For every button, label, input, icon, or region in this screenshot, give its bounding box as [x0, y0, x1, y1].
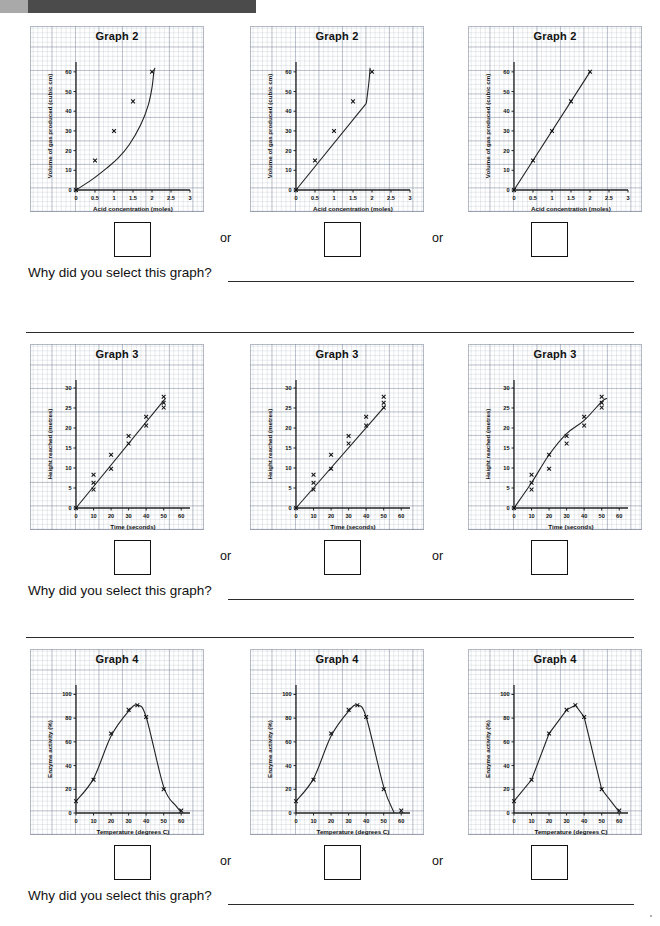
- svg-text:60: 60: [616, 818, 622, 824]
- svg-text:25: 25: [285, 405, 291, 411]
- graph-panel-graph-3-option-1[interactable]: 0102030405060051015202530Time (seconds)H…: [30, 344, 204, 530]
- svg-text:Enzyme activity (%): Enzyme activity (%): [484, 720, 491, 778]
- svg-text:Volume of gas produced (cubic: Volume of gas produced (cubic cm): [484, 74, 491, 178]
- svg-text:30: 30: [563, 818, 569, 824]
- svg-text:100: 100: [500, 691, 509, 697]
- section-divider: [26, 332, 634, 333]
- svg-text:3: 3: [408, 195, 411, 201]
- svg-text:40: 40: [143, 818, 149, 824]
- svg-text:50: 50: [599, 513, 605, 519]
- section-divider: [26, 637, 634, 638]
- svg-text:40: 40: [65, 108, 71, 114]
- svg-text:2.5: 2.5: [605, 195, 613, 201]
- svg-text:40: 40: [363, 818, 369, 824]
- graph-choice-checkbox-2[interactable]: [324, 540, 361, 575]
- graph-title: Graph 2: [30, 30, 204, 42]
- svg-text:20: 20: [108, 818, 114, 824]
- svg-text:0: 0: [506, 187, 509, 193]
- svg-text:40: 40: [581, 513, 587, 519]
- graph-panel-graph-4-option-2[interactable]: 0102030405060020406080100Temperature (de…: [250, 649, 424, 835]
- svg-text:Acid concentration (moles): Acid concentration (moles): [531, 205, 611, 212]
- svg-text:30: 30: [503, 385, 509, 391]
- svg-text:0: 0: [68, 810, 71, 816]
- graph-panel-graph-4-option-1[interactable]: 0102030405060020406080100Temperature (de…: [30, 649, 204, 835]
- svg-text:0.5: 0.5: [529, 195, 537, 201]
- svg-text:60: 60: [65, 739, 71, 745]
- svg-text:2.5: 2.5: [167, 195, 175, 201]
- svg-text:20: 20: [65, 425, 71, 431]
- graph-options-row: 0102030405060020406080100Temperature (de…: [0, 649, 660, 835]
- svg-text:25: 25: [65, 405, 71, 411]
- graph-choice-checkbox-2[interactable]: [324, 222, 361, 257]
- svg-text:0: 0: [294, 195, 297, 201]
- svg-text:0: 0: [506, 810, 509, 816]
- svg-text:60: 60: [65, 69, 71, 75]
- reason-answer-line[interactable]: [228, 904, 634, 905]
- svg-text:60: 60: [178, 513, 184, 519]
- svg-text:20: 20: [328, 513, 334, 519]
- svg-text:20: 20: [546, 513, 552, 519]
- graph-choice-checkbox-1[interactable]: [114, 222, 151, 257]
- graph-title: Graph 4: [250, 653, 424, 665]
- svg-text:2: 2: [370, 195, 373, 201]
- svg-text:40: 40: [285, 108, 291, 114]
- svg-text:50: 50: [285, 89, 291, 95]
- graph-choice-checkbox-1[interactable]: [114, 845, 151, 880]
- graph-choice-checkbox-3[interactable]: [531, 222, 568, 257]
- choice-row: oror: [0, 540, 660, 580]
- svg-text:80: 80: [65, 715, 71, 721]
- graph-choice-checkbox-2[interactable]: [324, 845, 361, 880]
- plot-area: 0102030405060020406080100Temperature (de…: [468, 649, 642, 835]
- graph-choice-checkbox-1[interactable]: [114, 540, 151, 575]
- plot-area: 0102030405060020406080100Temperature (de…: [30, 649, 204, 835]
- graph-panel-graph-2-option-3[interactable]: 00.511.522.530102030405060Acid concentra…: [468, 26, 642, 212]
- svg-text:10: 10: [528, 513, 534, 519]
- plot-area: 0102030405060051015202530Time (seconds)H…: [468, 344, 642, 530]
- graph-choice-checkbox-3[interactable]: [531, 540, 568, 575]
- svg-text:0: 0: [512, 513, 515, 519]
- svg-text:60: 60: [398, 818, 404, 824]
- svg-text:10: 10: [310, 818, 316, 824]
- plot-area: 00.511.522.530102030405060Acid concentra…: [30, 26, 204, 212]
- svg-text:50: 50: [65, 89, 71, 95]
- svg-text:0: 0: [74, 195, 77, 201]
- svg-text:60: 60: [503, 739, 509, 745]
- svg-text:30: 30: [125, 818, 131, 824]
- svg-text:20: 20: [328, 818, 334, 824]
- graph-panel-graph-2-option-1[interactable]: 00.511.522.530102030405060Acid concentra…: [30, 26, 204, 212]
- svg-text:Enzyme activity (%): Enzyme activity (%): [266, 720, 273, 778]
- svg-text:1: 1: [112, 195, 115, 201]
- svg-text:80: 80: [285, 715, 291, 721]
- svg-text:0: 0: [512, 195, 515, 201]
- scan-artifact-light-segment: [0, 0, 28, 13]
- svg-text:40: 40: [143, 513, 149, 519]
- svg-text:0: 0: [68, 505, 71, 511]
- svg-text:0: 0: [74, 818, 77, 824]
- reason-answer-line[interactable]: [228, 599, 634, 600]
- graph-panel-graph-4-option-3[interactable]: 0102030405060020406080100Temperature (de…: [468, 649, 642, 835]
- reason-question-label: Why did you select this graph?: [28, 265, 212, 280]
- svg-text:60: 60: [285, 739, 291, 745]
- graph-options-row: 0102030405060051015202530Time (seconds)H…: [0, 344, 660, 530]
- graph-choice-checkbox-3[interactable]: [531, 845, 568, 880]
- reason-question-row: Why did you select this graph?: [0, 265, 660, 289]
- svg-text:10: 10: [285, 167, 291, 173]
- svg-text:Acid concentration (moles): Acid concentration (moles): [93, 205, 173, 212]
- svg-text:Time (seconds): Time (seconds): [548, 523, 593, 530]
- svg-text:20: 20: [503, 148, 509, 154]
- graph-title: Graph 2: [468, 30, 642, 42]
- svg-text:Temperature (degrees C): Temperature (degrees C): [535, 828, 608, 835]
- svg-text:0.5: 0.5: [91, 195, 99, 201]
- svg-text:15: 15: [65, 445, 71, 451]
- plot-area: 00.511.522.530102030405060Acid concentra…: [250, 26, 424, 212]
- svg-text:20: 20: [546, 818, 552, 824]
- graph-panel-graph-2-option-2[interactable]: 00.511.522.530102030405060Acid concentra…: [250, 26, 424, 212]
- reason-answer-line[interactable]: [228, 281, 634, 282]
- graph-panel-graph-3-option-3[interactable]: 0102030405060051015202530Time (seconds)H…: [468, 344, 642, 530]
- svg-text:5: 5: [288, 485, 291, 491]
- svg-text:30: 30: [345, 513, 351, 519]
- graph-panel-graph-3-option-2[interactable]: 0102030405060051015202530Time (seconds)H…: [250, 344, 424, 530]
- svg-text:3: 3: [188, 195, 191, 201]
- svg-text:2: 2: [588, 195, 591, 201]
- svg-text:50: 50: [381, 818, 387, 824]
